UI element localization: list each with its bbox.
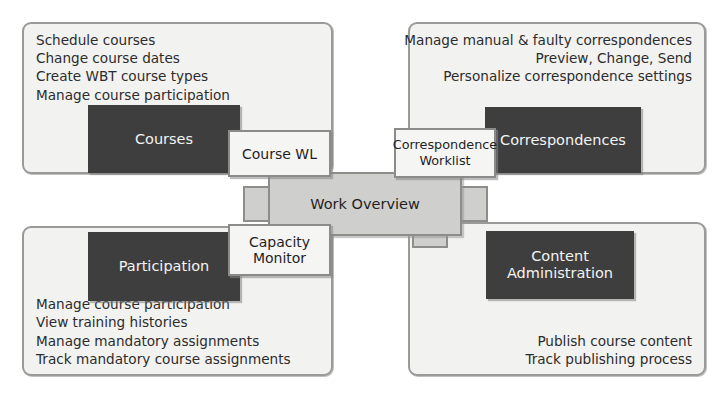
block-content-administration-label-line1: Content [531, 248, 589, 264]
feature-item: Track publishing process [525, 350, 692, 368]
node-capacity-monitor-label-line1: Capacity [249, 234, 310, 250]
feature-item: View training histories [36, 313, 291, 331]
node-course-worklist: Course WL [228, 130, 331, 177]
block-courses: Courses [88, 105, 240, 173]
feature-item: Publish course content [525, 332, 692, 350]
feature-item: Manage course participation [36, 86, 230, 104]
node-capacity-monitor: Capacity Monitor [228, 224, 331, 276]
panel-participation-feature-list: Manage course participation View trainin… [36, 295, 291, 368]
block-courses-label: Courses [135, 131, 193, 148]
block-participation: Participation [88, 232, 240, 301]
feature-item: Preview, Change, Send [404, 49, 692, 67]
block-content-administration-label-line2: Administration [507, 265, 613, 281]
feature-item: Create WBT course types [36, 67, 230, 85]
block-correspondences-label: Correspondences [500, 132, 626, 149]
panel-content-administration-feature-list: Publish course content Track publishing … [525, 332, 692, 368]
node-course-worklist-label: Course WL [242, 146, 317, 162]
block-correspondences: Correspondences [485, 107, 641, 173]
node-correspondence-worklist: Correspondence Worklist [394, 128, 496, 178]
feature-item: Manage mandatory assignments [36, 332, 291, 350]
feature-item: Personalize correspondence settings [404, 67, 692, 85]
node-capacity-monitor-label-line2: Monitor [249, 250, 310, 266]
connector-center-right-stub [458, 186, 488, 222]
feature-item: Manage manual & faulty correspondences [404, 31, 692, 49]
block-participation-label: Participation [119, 258, 210, 275]
work-overview-label: Work Overview [310, 196, 420, 212]
block-content-administration: Content Administration [486, 231, 634, 299]
node-correspondence-worklist-label-line2: Worklist [393, 153, 497, 169]
feature-item: Track mandatory course assignments [36, 350, 291, 368]
feature-item: Change course dates [36, 49, 230, 67]
node-correspondence-worklist-label-line1: Correspondence [393, 137, 497, 153]
panel-correspondences-feature-list: Manage manual & faulty correspondences P… [404, 31, 692, 86]
feature-item: Schedule courses [36, 31, 230, 49]
panel-courses-feature-list: Schedule courses Change course dates Cre… [36, 31, 230, 104]
work-overview-diagram: Schedule courses Change course dates Cre… [0, 0, 727, 395]
